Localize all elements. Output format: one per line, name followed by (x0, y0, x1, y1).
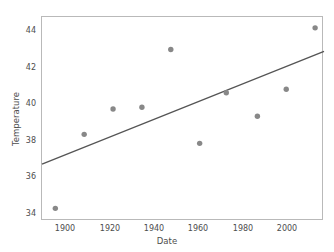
y-tick-label-34: 34 (14, 209, 36, 218)
x-tick-label-1920: 1920 (96, 224, 124, 233)
data-point (255, 114, 260, 119)
plot-svg (42, 17, 324, 221)
data-point (110, 106, 115, 111)
x-tick-label-2000: 2000 (273, 224, 301, 233)
x-tick-label-1960: 1960 (184, 224, 212, 233)
y-axis-label: Temperature (11, 59, 21, 179)
x-axis-label: Date (0, 236, 334, 246)
data-point (81, 132, 86, 137)
x-tick-label-1940: 1940 (140, 224, 168, 233)
data-points-layer (53, 25, 318, 211)
trend-line-layer (42, 51, 324, 164)
trend-line (42, 51, 324, 164)
data-point (312, 25, 317, 30)
x-tick-label-1900: 1900 (51, 224, 79, 233)
y-tick-label-36: 36 (14, 172, 36, 181)
y-tick-label-44: 44 (14, 26, 36, 35)
y-tick-label-42: 42 (14, 63, 36, 72)
plot-area (41, 16, 323, 220)
data-point (224, 90, 229, 95)
data-point (284, 87, 289, 92)
x-tick-label-1980: 1980 (229, 224, 257, 233)
data-point (53, 206, 58, 211)
y-tick-label-40: 40 (14, 99, 36, 108)
data-point (139, 105, 144, 110)
y-tick-label-38: 38 (14, 136, 36, 145)
data-point (197, 141, 202, 146)
scatter-chart-figure: Temperature Date 44 42 40 38 36 34 1900 … (0, 0, 334, 252)
data-point (168, 47, 173, 52)
